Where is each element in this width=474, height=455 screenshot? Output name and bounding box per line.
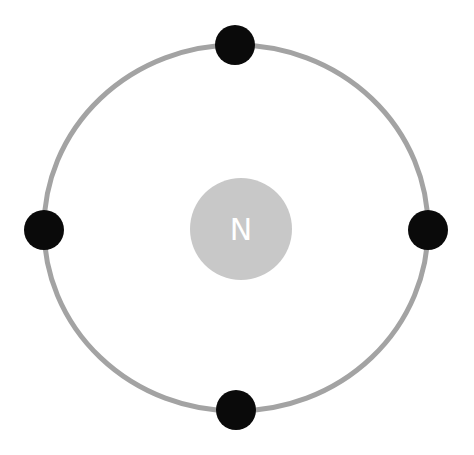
electron-top [215,25,255,65]
electron-bottom [216,390,256,430]
nucleus-label: N [230,212,252,247]
atom-diagram: N [0,0,474,455]
electron-right [408,210,448,250]
electron-left [24,210,64,250]
